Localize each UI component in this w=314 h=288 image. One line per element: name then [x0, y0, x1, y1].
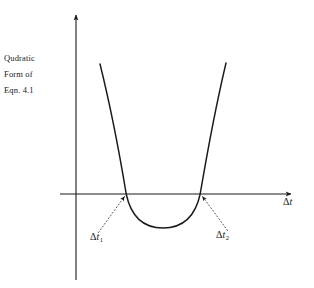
- quadratic-form-figure: Qudratic Form of Eqn. 4.1 Δt Δt1 Δt2: [0, 0, 314, 288]
- x-axis-label-variable: t: [289, 196, 292, 207]
- root-1-label: Δt1: [90, 231, 102, 242]
- root-1-leader-line: [99, 197, 125, 233]
- x-axis-label: Δt: [283, 196, 292, 207]
- root-2-leader-line: [203, 197, 228, 231]
- root-2-label-variable: t: [222, 229, 225, 240]
- root-2-label-subscript: 2: [226, 234, 229, 241]
- caption-line-1: Qudratic: [4, 50, 66, 66]
- caption-line-2: Form of: [4, 66, 66, 82]
- root-1-label-subscript: 1: [100, 236, 103, 243]
- caption-line-3: Eqn. 4.1: [4, 82, 66, 98]
- root-1-label-variable: t: [96, 231, 99, 242]
- figure-caption: Qudratic Form of Eqn. 4.1: [4, 50, 66, 98]
- root-2-label: Δt2: [216, 229, 228, 240]
- plot-canvas: [0, 0, 314, 288]
